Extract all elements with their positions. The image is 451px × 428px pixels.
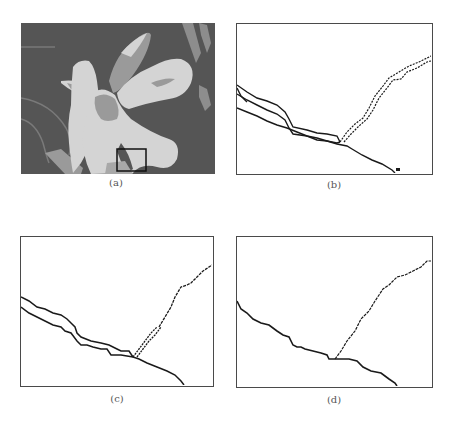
panel-d-contours — [236, 236, 433, 388]
contour-drawing-d — [237, 237, 431, 386]
panel-label-c: (c) — [97, 393, 137, 404]
panel-b-contours — [236, 23, 433, 175]
panel-label-d: (d) — [314, 394, 354, 405]
panel-c-contours — [20, 236, 214, 387]
panel-label-b: (b) — [314, 179, 354, 190]
flower-segmentation-image — [21, 23, 215, 174]
panel-label-a: (a) — [96, 177, 136, 188]
panel-a-flower-image — [21, 23, 215, 174]
contour-drawing-c — [21, 237, 212, 385]
contour-drawing-b — [237, 24, 431, 173]
